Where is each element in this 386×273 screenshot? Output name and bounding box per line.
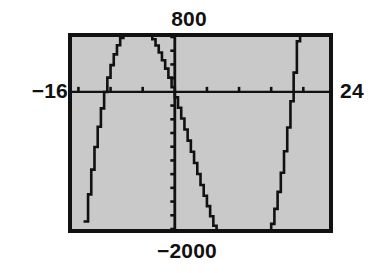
graph-plot-area (72, 37, 329, 229)
calculator-graph-screenshot: 800 −16 24 −2000 (0, 0, 386, 273)
calculator-screen-frame (68, 33, 333, 233)
ymax-label: 800 (0, 8, 386, 29)
ymin-label: −2000 (0, 240, 386, 261)
function-curve (85, 37, 310, 229)
xmin-label: −16 (14, 80, 68, 101)
xmax-label: 24 (340, 80, 386, 101)
